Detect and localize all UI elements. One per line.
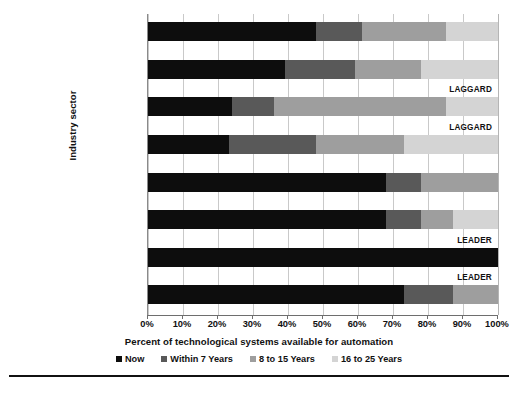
bar-segment[interactable] xyxy=(316,22,362,41)
bar-segment[interactable] xyxy=(148,60,285,79)
bar-annotation: LEADER xyxy=(457,273,492,282)
bar-row: TransportationLAGGARD xyxy=(148,127,498,165)
bar-row: Health care xyxy=(148,202,498,240)
bar-segment[interactable] xyxy=(421,210,453,229)
legend-swatch-icon xyxy=(116,356,122,362)
bar-row: Accom. and food xyxy=(148,165,498,203)
bar-segment[interactable] xyxy=(148,285,404,304)
stacked-bar[interactable] xyxy=(148,97,498,116)
legend-item[interactable]: Now xyxy=(116,354,144,364)
chart-figure: Industry sector AgricultureManufacturing… xyxy=(0,0,518,394)
stacked-bar[interactable] xyxy=(148,22,498,41)
stacked-bar[interactable] xyxy=(148,135,498,154)
bar-annotation: LAGGARD xyxy=(449,85,492,94)
bar-segment[interactable] xyxy=(446,97,499,116)
bar-segment[interactable] xyxy=(386,210,421,229)
bar-segment[interactable] xyxy=(316,135,404,154)
gridline xyxy=(498,14,499,315)
bar-segment[interactable] xyxy=(148,22,316,41)
stacked-bar[interactable] xyxy=(148,60,498,79)
bar-row: Agriculture xyxy=(148,14,498,52)
bar-segment[interactable] xyxy=(148,248,498,267)
caption-rule xyxy=(9,375,509,377)
bar-segment[interactable] xyxy=(355,60,422,79)
bar-segment[interactable] xyxy=(421,60,498,79)
bar-annotation: LEADER xyxy=(457,236,492,245)
bar-segment[interactable] xyxy=(148,135,229,154)
chart-legend: NowWithin 7 Years8 to 15 Years16 to 25 Y… xyxy=(0,354,518,364)
bar-segment[interactable] xyxy=(386,173,421,192)
bar-segment[interactable] xyxy=(229,135,317,154)
y-axis-title: Industry sector xyxy=(67,56,78,196)
x-axis-tick-label: 10% xyxy=(162,319,202,329)
legend-swatch-icon xyxy=(161,356,167,362)
stacked-bar[interactable] xyxy=(148,210,498,229)
bar-segment[interactable] xyxy=(285,60,355,79)
legend-label: Now xyxy=(125,354,144,364)
caption-text xyxy=(9,381,509,393)
x-axis-tick-label: 40% xyxy=(267,319,307,329)
bar-segment[interactable] xyxy=(148,210,386,229)
legend-label: 8 to 15 Years xyxy=(259,354,315,364)
bar-segment[interactable] xyxy=(148,173,386,192)
legend-item[interactable]: 8 to 15 Years xyxy=(250,354,315,364)
x-axis-tick-label: 60% xyxy=(337,319,377,329)
bar-segment[interactable] xyxy=(453,285,499,304)
legend-label: Within 7 Years xyxy=(170,354,233,364)
legend-item[interactable]: Within 7 Years xyxy=(161,354,233,364)
x-axis-tick-label: 70% xyxy=(372,319,412,329)
bar-segment[interactable] xyxy=(404,285,453,304)
x-axis-tick-label: 90% xyxy=(442,319,482,329)
x-axis-title: Percent of technological systems availab… xyxy=(0,336,518,347)
bar-segment[interactable] xyxy=(148,97,232,116)
x-axis-tick-label: 100% xyxy=(477,319,517,329)
x-axis-tick-label: 20% xyxy=(197,319,237,329)
bar-segment[interactable] xyxy=(453,210,499,229)
x-axis-tick-label: 0% xyxy=(127,319,167,329)
legend-swatch-icon xyxy=(332,356,338,362)
bar-segment[interactable] xyxy=(421,173,498,192)
bar-row: Educational servicesLEADER xyxy=(148,277,498,315)
bar-segment[interactable] xyxy=(232,97,274,116)
legend-item[interactable]: 16 to 25 Years xyxy=(332,354,402,364)
bar-segment[interactable] xyxy=(446,22,499,41)
bar-annotation: LAGGARD xyxy=(449,123,492,132)
legend-swatch-icon xyxy=(250,356,256,362)
legend-label: 16 to 25 Years xyxy=(341,354,402,364)
x-axis-tick-label: 50% xyxy=(302,319,342,329)
stacked-bar[interactable] xyxy=(148,285,498,304)
bar-row: Admin. and supportLEADER xyxy=(148,240,498,278)
bar-row: ConstructionLAGGARD xyxy=(148,89,498,127)
stacked-bar[interactable] xyxy=(148,173,498,192)
x-axis-tick-label: 30% xyxy=(232,319,272,329)
bar-row: Manufacturing xyxy=(148,52,498,90)
bar-segment[interactable] xyxy=(274,97,446,116)
stacked-bar[interactable] xyxy=(148,248,498,267)
bar-segment[interactable] xyxy=(404,135,499,154)
bar-segment[interactable] xyxy=(362,22,446,41)
x-axis-tick-label: 80% xyxy=(407,319,447,329)
plot-area: AgricultureManufacturingConstructionLAGG… xyxy=(147,14,498,315)
